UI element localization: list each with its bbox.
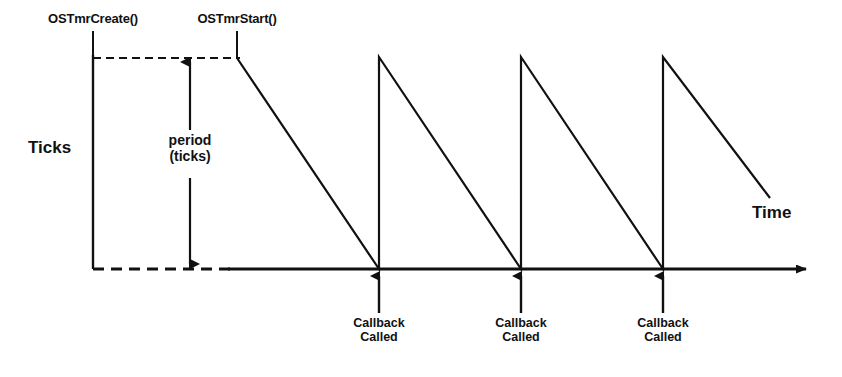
timer-periodic-mode-diagram: OSTmrCreate() OSTmrStart() Ticks Time pe… — [0, 0, 842, 377]
callback-label-1-line2: Called — [353, 330, 404, 344]
callback-label-2-line1: Callback — [495, 316, 546, 330]
sawtooth-waveform — [237, 57, 770, 269]
diagram-canvas — [0, 0, 842, 377]
y-axis-label: Ticks — [28, 138, 71, 157]
callback-label-3-line1: Callback — [637, 316, 688, 330]
callback-label-3-line2: Called — [637, 330, 688, 344]
callback-label-2-line2: Called — [495, 330, 546, 344]
event-label-ostmrcreate: OSTmrCreate() — [48, 12, 138, 27]
callback-label-2: Callback Called — [495, 316, 546, 344]
callback-label-1-line1: Callback — [353, 316, 404, 330]
callback-label-1: Callback Called — [353, 316, 404, 344]
event-label-ostmrstart: OSTmrStart() — [197, 12, 276, 27]
period-annotation-line1: period — [169, 132, 212, 148]
period-annotation: period (ticks) — [169, 133, 212, 164]
x-axis-label: Time — [752, 203, 791, 222]
period-annotation-line2: (ticks) — [169, 148, 210, 164]
callback-label-3: Callback Called — [637, 316, 688, 344]
